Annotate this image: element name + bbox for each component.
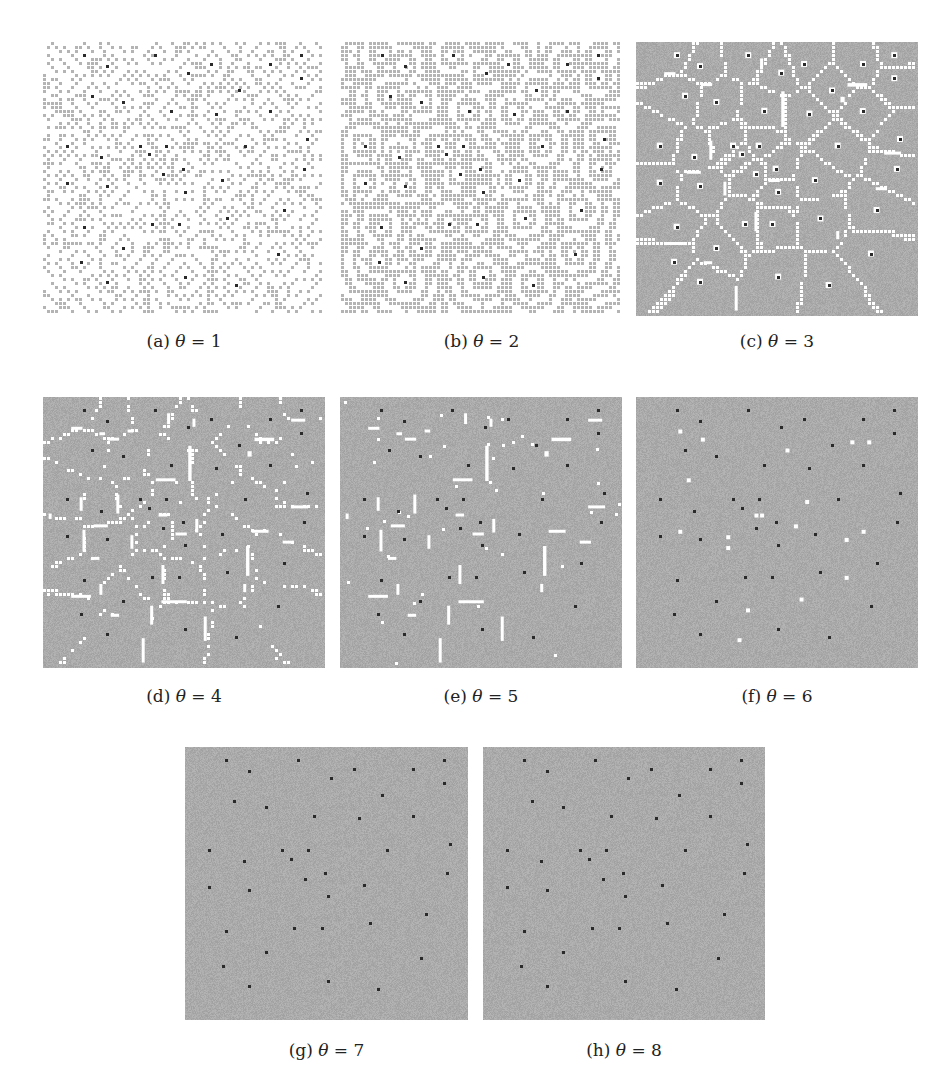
theta-symbol: θ (616, 1040, 626, 1060)
caption-label: (g) (289, 1040, 319, 1060)
theta-symbol: θ (766, 686, 776, 706)
panel-g (185, 747, 468, 1020)
caption-label: (f) (741, 686, 766, 706)
page-footer-cutoff (0, 1072, 947, 1087)
lattice-image-b (341, 42, 622, 316)
caption-label: (c) (740, 331, 768, 351)
caption-e: (e) θ = 5 (381, 686, 581, 706)
lattice-image-f (636, 397, 918, 668)
caption-value: = 1 (186, 331, 222, 351)
caption-label: (h) (586, 1040, 616, 1060)
caption-f: (f) θ = 6 (677, 686, 877, 706)
theta-symbol: θ (472, 686, 482, 706)
lattice-image-g (185, 747, 468, 1020)
lattice-image-c (636, 42, 918, 316)
panel-e (340, 397, 622, 668)
theta-symbol: θ (175, 331, 185, 351)
caption-d: (d) θ = 4 (84, 686, 284, 706)
panel-a (43, 42, 325, 316)
panel-d (43, 397, 325, 668)
theta-symbol: θ (473, 331, 483, 351)
panel-c (636, 42, 918, 316)
caption-value: = 4 (186, 686, 222, 706)
caption-label: (a) (147, 331, 176, 351)
caption-label: (b) (444, 331, 474, 351)
panel-f (636, 397, 918, 668)
lattice-image-a (43, 42, 325, 316)
lattice-image-d (43, 397, 325, 668)
theta-symbol: θ (768, 331, 778, 351)
caption-a: (a) θ = 1 (84, 331, 284, 351)
caption-b: (b) θ = 2 (382, 331, 582, 351)
caption-value: = 2 (483, 331, 519, 351)
panel-h (483, 747, 765, 1020)
lattice-image-e (340, 397, 622, 668)
panel-b (341, 42, 622, 316)
caption-value: = 7 (328, 1040, 364, 1060)
caption-label: (e) (444, 686, 473, 706)
lattice-image-h (483, 747, 765, 1020)
caption-value: = 8 (626, 1040, 662, 1060)
caption-label: (d) (146, 686, 176, 706)
theta-symbol: θ (176, 686, 186, 706)
caption-c: (c) θ = 3 (677, 331, 877, 351)
caption-h: (h) θ = 8 (524, 1040, 724, 1060)
caption-g: (g) θ = 7 (227, 1040, 427, 1060)
caption-value: = 6 (777, 686, 813, 706)
theta-symbol: θ (318, 1040, 328, 1060)
caption-value: = 5 (483, 686, 519, 706)
caption-value: = 3 (778, 331, 814, 351)
